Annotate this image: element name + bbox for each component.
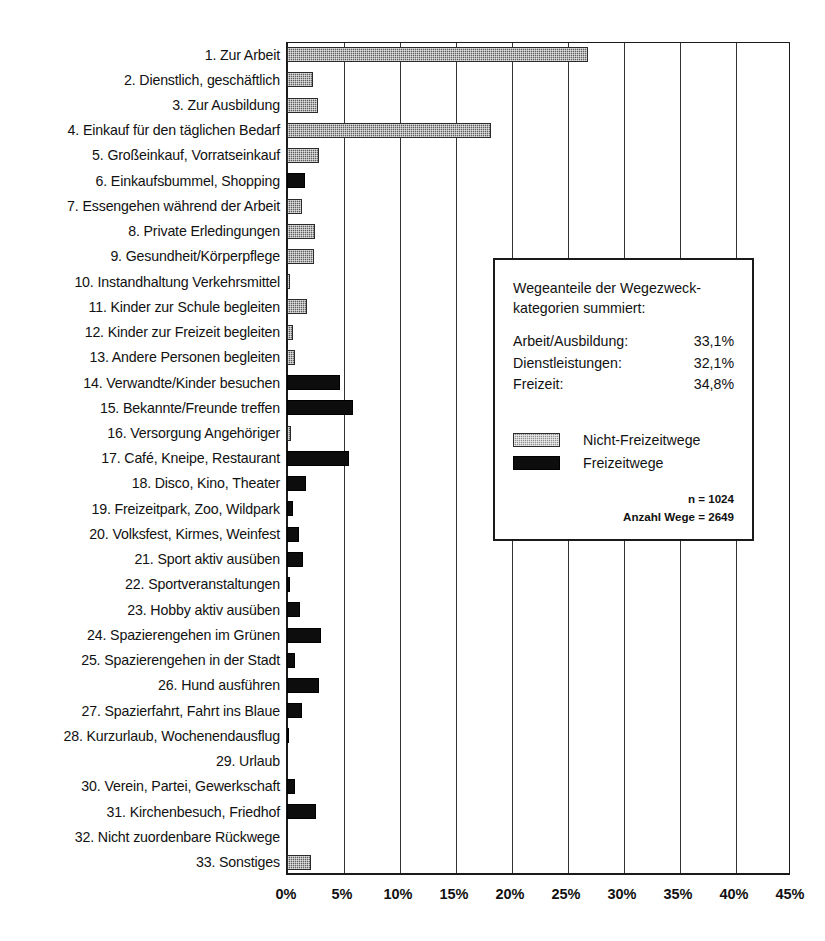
bar-track xyxy=(287,673,319,698)
bar-track xyxy=(287,345,295,370)
chart-row: 2. Dienstlich, geschäftlich xyxy=(0,67,825,92)
chart-row: 27. Spazierfahrt, Fahrt ins Blaue xyxy=(0,698,825,723)
category-label: 16. Versorgung Angehöriger xyxy=(0,426,286,440)
bar xyxy=(287,602,300,617)
bar-track xyxy=(287,648,295,673)
summary-value-dienstleistungen: 32,1% xyxy=(694,353,734,375)
chart-row: 22. Sportveranstaltungen xyxy=(0,572,825,597)
bar-track xyxy=(287,521,299,546)
bar xyxy=(287,804,316,819)
summary-label-arbeit-ausbildung: Arbeit/Ausbildung: xyxy=(513,331,628,353)
legend-swatch-nicht-freizeitwege xyxy=(513,433,560,447)
chart-row: 25. Spazierengehen in der Stadt xyxy=(0,648,825,673)
category-label: 24. Spazierengehen im Grünen xyxy=(0,628,286,642)
bar-track xyxy=(287,572,290,597)
x-tick-label: 25% xyxy=(551,886,580,902)
bar xyxy=(287,779,295,794)
legend-info-box: Wegeanteile der Wegezweck- kategorien su… xyxy=(493,258,754,541)
chart-row: 4. Einkauf für den täglichen Bedarf xyxy=(0,118,825,143)
infobox-notes: n = 1024 Anzahl Wege = 2649 xyxy=(623,490,734,525)
x-tick-label: 20% xyxy=(495,886,524,902)
category-label: 9. Gesundheit/Körperpflege xyxy=(0,249,286,263)
bar-track xyxy=(287,294,307,319)
category-label: 33. Sonstiges xyxy=(0,855,286,869)
infobox-title: Wegeanteile der Wegezweck- kategorien su… xyxy=(513,278,734,318)
category-label: 6. Einkaufsbummel, Shopping xyxy=(0,174,286,188)
bar xyxy=(287,703,302,718)
bar xyxy=(287,123,491,138)
legend-swatch-freizeitwege xyxy=(513,456,560,470)
chart-row: 24. Spazierengehen im Grünen xyxy=(0,622,825,647)
category-label: 15. Bekannte/Freunde treffen xyxy=(0,401,286,415)
note-sample-size: n = 1024 xyxy=(623,490,734,507)
category-label: 11. Kinder zur Schule begleiten xyxy=(0,300,286,314)
category-label: 25. Spazierengehen in der Stadt xyxy=(0,653,286,667)
bar xyxy=(287,325,293,340)
chart-row: 7. Essengehen während der Arbeit xyxy=(0,193,825,218)
category-label: 7. Essengehen während der Arbeit xyxy=(0,199,286,213)
chart-row: 28. Kurzurlaub, Wochenendausflug xyxy=(0,723,825,748)
bar xyxy=(287,476,306,491)
chart-row: 32. Nicht zuordenbare Rückwege xyxy=(0,824,825,849)
bar-track xyxy=(287,698,302,723)
x-tick-label: 5% xyxy=(332,886,353,902)
summary-label-dienstleistungen: Dienstleistungen: xyxy=(513,353,622,375)
category-label: 30. Verein, Partei, Gewerkschaft xyxy=(0,779,286,793)
bar-track xyxy=(287,168,305,193)
x-tick-label: 15% xyxy=(439,886,468,902)
category-label: 10. Instandhaltung Verkehrsmittel xyxy=(0,275,286,289)
bar xyxy=(287,249,314,264)
legend: Nicht-Freizeitwege Freizeitwege xyxy=(513,432,734,471)
chart-row: 23. Hobby aktiv ausüben xyxy=(0,597,825,622)
category-label: 2. Dienstlich, geschäftlich xyxy=(0,73,286,87)
category-label: 1. Zur Arbeit xyxy=(0,48,286,62)
bar xyxy=(287,628,321,643)
legend-label-freizeitwege: Freizeitwege xyxy=(583,455,663,471)
bar-track xyxy=(287,597,300,622)
category-label: 32. Nicht zuordenbare Rückwege xyxy=(0,830,286,844)
x-tick-label: 30% xyxy=(607,886,636,902)
chart-row: 3. Zur Ausbildung xyxy=(0,92,825,117)
category-label: 17. Café, Kneipe, Restaurant xyxy=(0,451,286,465)
category-label: 22. Sportveranstaltungen xyxy=(0,577,286,591)
bar xyxy=(287,400,353,415)
bar-track xyxy=(287,471,306,496)
bar-track xyxy=(287,118,491,143)
category-label: 27. Spazierfahrt, Fahrt ins Blaue xyxy=(0,704,286,718)
bar-track xyxy=(287,67,313,92)
bar-track xyxy=(287,92,318,117)
bar-track xyxy=(287,219,315,244)
bar-track xyxy=(287,496,293,521)
bar-track xyxy=(287,850,311,875)
chart-row: 6. Einkaufsbummel, Shopping xyxy=(0,168,825,193)
category-label: 12. Kinder zur Freizeit begleiten xyxy=(0,325,286,339)
chart-row: 33. Sonstiges xyxy=(0,850,825,875)
summary-row-dienstleistungen: Dienstleistungen: 32,1% xyxy=(513,353,734,375)
bar xyxy=(287,224,315,239)
summary-value-freizeit: 34,8% xyxy=(694,374,734,396)
x-tick-label: 45% xyxy=(775,886,804,902)
category-label: 21. Sport aktiv ausüben xyxy=(0,552,286,566)
bar-track xyxy=(287,370,340,395)
chart-row: 26. Hund ausführen xyxy=(0,673,825,698)
infobox-title-line-1: Wegeanteile der Wegezweck- xyxy=(513,278,734,298)
bar xyxy=(287,653,295,668)
legend-item-freizeitwege: Freizeitwege xyxy=(513,455,734,471)
category-label: 3. Zur Ausbildung xyxy=(0,98,286,112)
bar-track xyxy=(287,269,290,294)
bar xyxy=(287,678,319,693)
bar xyxy=(287,148,319,163)
bar-track xyxy=(287,244,314,269)
bar-track xyxy=(287,395,353,420)
bar xyxy=(287,451,349,466)
bar xyxy=(287,47,588,62)
bar xyxy=(287,274,290,289)
bar xyxy=(287,527,299,542)
bar xyxy=(287,426,291,441)
summary-row-freizeit: Freizeit: 34,8% xyxy=(513,374,734,396)
bar-track xyxy=(287,774,295,799)
bar-chart: 1. Zur Arbeit2. Dienstlich, geschäftlich… xyxy=(0,0,825,941)
x-tick-label: 40% xyxy=(719,886,748,902)
bar-track xyxy=(287,421,291,446)
bar xyxy=(287,577,290,592)
